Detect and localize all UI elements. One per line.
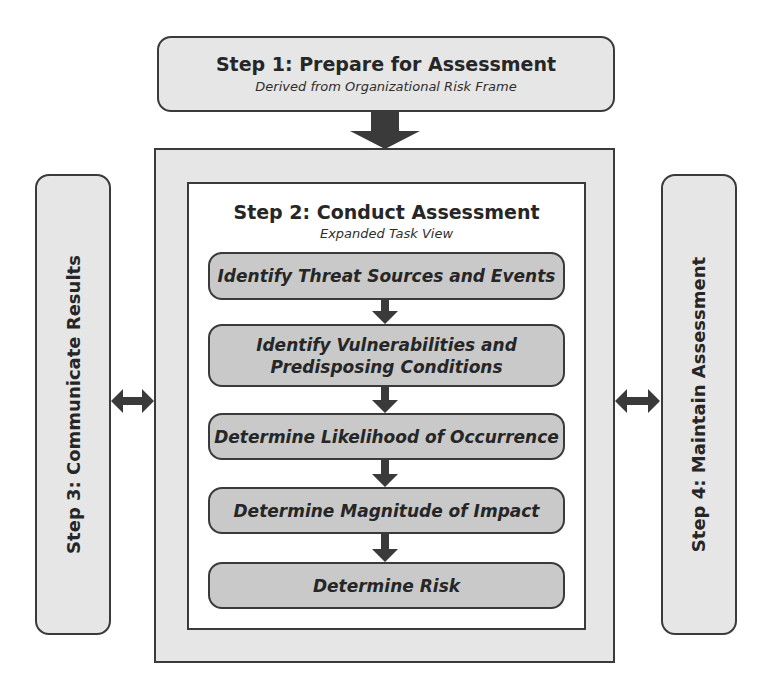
task-identify-vulnerabilities: Identify Vulnerabilities and Predisposin… [208,324,565,387]
task-label: Identify Threat Sources and Events [218,265,556,287]
step4-title: Step 4: Maintain Assessment [689,257,710,552]
task-determine-magnitude: Determine Magnitude of Impact [208,487,565,534]
step2-subtitle: Expanded Task View [187,225,586,243]
task-determine-likelihood: Determine Likelihood of Occurrence [208,413,565,460]
step3-communicate-box: Step 3: Communicate Results [35,174,111,635]
task-label-line1: Identify Vulnerabilities and [256,334,517,356]
step1-prepare-box: Step 1: Prepare for Assessment Derived f… [157,36,615,112]
step1-title: Step 1: Prepare for Assessment [216,52,556,76]
task-label: Determine Likelihood of Occurrence [214,426,559,448]
step4-maintain-box: Step 4: Maintain Assessment [661,174,737,635]
task-label: Determine Magnitude of Impact [234,500,540,522]
step2-title: Step 2: Conduct Assessment [187,200,586,224]
task-determine-risk: Determine Risk [208,562,565,609]
step1-subtitle: Derived from Organizational Risk Frame [255,78,516,96]
step3-title: Step 3: Communicate Results [63,255,84,554]
task-identify-threat-sources: Identify Threat Sources and Events [208,252,565,300]
task-label-line2: Predisposing Conditions [270,356,502,378]
task-label: Determine Risk [313,575,460,597]
